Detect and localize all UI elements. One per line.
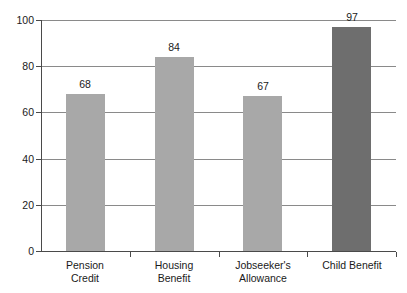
- y-axis-line: [41, 20, 42, 252]
- bar: [243, 96, 282, 251]
- y-tick-label-wrap: 60: [0, 107, 34, 117]
- bar-value-label: 84: [144, 42, 204, 53]
- x-category-label-line: Child Benefit: [302, 259, 402, 272]
- x-category-label-line: Jobseeker's: [213, 259, 313, 272]
- x-category-label-line: Credit: [35, 272, 135, 285]
- y-tick-label: 0: [4, 246, 34, 256]
- bar-chart: 020406080100 68846797 PensionCreditHousi…: [0, 0, 407, 293]
- y-tick-label: 20: [4, 200, 34, 210]
- y-tick-label-wrap: 20: [0, 200, 34, 210]
- y-tick-label: 40: [4, 154, 34, 164]
- y-tick-label: 80: [4, 61, 34, 71]
- y-tick-label: 100: [4, 15, 34, 25]
- x-tick-mark: [219, 252, 220, 257]
- x-category-label: Child Benefit: [302, 259, 402, 272]
- x-tick-mark: [307, 252, 308, 257]
- bar-value-label: 97: [322, 12, 382, 23]
- y-tick-label-wrap: 0: [0, 246, 34, 256]
- bar: [332, 27, 371, 251]
- bar: [155, 57, 194, 251]
- bar-value-label: 67: [233, 81, 293, 92]
- plot-area: [41, 20, 396, 251]
- y-tick-label-wrap: 80: [0, 61, 34, 71]
- x-category-label: Jobseeker'sAllowance: [213, 259, 313, 284]
- x-tick-mark: [396, 252, 397, 257]
- x-category-label-line: Allowance: [213, 272, 313, 285]
- x-category-label-line: Benefit: [124, 272, 224, 285]
- bar-value-label: 68: [55, 79, 115, 90]
- bar: [66, 94, 105, 251]
- y-tick-label: 60: [4, 107, 34, 117]
- x-category-label-line: Pension: [35, 259, 135, 272]
- x-category-label: HousingBenefit: [124, 259, 224, 284]
- x-category-label: PensionCredit: [35, 259, 135, 284]
- x-category-label-line: Housing: [124, 259, 224, 272]
- y-tick-label-wrap: 40: [0, 154, 34, 164]
- x-tick-mark: [130, 252, 131, 257]
- y-tick-label-wrap: 100: [0, 15, 34, 25]
